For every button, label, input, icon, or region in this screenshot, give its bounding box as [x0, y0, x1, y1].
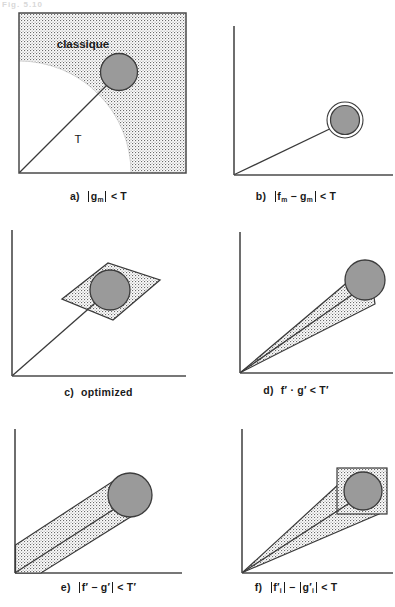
panel-e-band: e)f′−g′<T′ — [0, 415, 197, 587]
panel-e-relation: < — [117, 581, 123, 593]
vector-line-f — [243, 493, 366, 573]
panel-b-term1-sub: m — [281, 196, 287, 203]
panel-f-graphic — [197, 415, 395, 587]
panel-e-term2: g′ — [101, 581, 111, 593]
panel-c-optimized: c)optimized — [0, 218, 197, 390]
panel-b-caption: b)fm−gm<T — [197, 190, 395, 202]
uncertainty-disc-f — [344, 472, 382, 510]
panel-d-label: d) — [263, 384, 274, 396]
threshold-label-a: T — [74, 133, 81, 145]
panel-f-wedge-box: f)f′i−g′i<T — [197, 415, 395, 587]
panel-c-word: optimized — [81, 386, 133, 398]
panel-f-relation: < — [321, 581, 327, 593]
uncertainty-disc-c — [90, 270, 130, 310]
panel-a-threshold: T — [120, 190, 127, 202]
vector-line-b — [235, 124, 341, 175]
panel-b-operator: − — [291, 190, 297, 202]
abs-bar-close-1 — [284, 582, 285, 593]
abs-bar-open-1 — [271, 582, 272, 593]
abs-bar-close-2 — [316, 582, 317, 593]
panel-d-term2: g′ — [297, 384, 307, 396]
panel-b-term2: g — [300, 190, 307, 202]
panel-c-caption: c)optimized — [0, 386, 197, 398]
classique-label: classique — [57, 38, 109, 50]
uncertainty-disc-d — [345, 260, 385, 300]
panel-e-operator: − — [91, 581, 97, 593]
panel-a-term: g — [91, 190, 98, 202]
abs-bar-close — [105, 191, 106, 202]
uncertainty-disc-a — [101, 54, 138, 91]
panel-b-relation: < — [320, 190, 326, 202]
panel-e-label: e) — [61, 581, 71, 593]
panel-f-operator: − — [289, 581, 295, 593]
abs-bar-close — [315, 191, 316, 202]
panel-f-term1: f′ — [273, 581, 280, 593]
panel-a-graphic: classique T — [0, 8, 197, 188]
panel-d-caption: d)f′·g′<T′ — [197, 384, 395, 396]
uncertainty-disc-b — [331, 106, 360, 135]
panel-d-threshold: T′ — [319, 384, 329, 396]
figure-root: Fig. 5.10 — [0, 0, 395, 607]
panel-b-ring: b)fm−gm<T — [197, 8, 395, 188]
abs-bar-open — [79, 582, 80, 593]
panel-a-relation: < — [111, 190, 117, 202]
panel-f-threshold: T — [331, 581, 338, 593]
panel-d-term1: f′ — [281, 384, 288, 396]
abs-bar-open — [275, 191, 276, 202]
panel-d-relation: < — [310, 384, 316, 396]
panel-e-caption: e)f′−g′<T′ — [0, 581, 197, 593]
panel-a-classique: classique T a)gm<T — [0, 8, 197, 188]
panel-b-label: b) — [256, 190, 267, 202]
panel-e-threshold: T′ — [127, 581, 137, 593]
panel-c-label: c) — [64, 386, 74, 398]
panel-e-graphic — [0, 415, 197, 587]
panel-a-term-sub: m — [98, 196, 104, 203]
panel-d-graphic — [197, 218, 395, 390]
abs-bar-open-2 — [300, 582, 301, 593]
panel-f-term1-sub: i — [280, 587, 282, 594]
panel-a-caption: a)gm<T — [0, 190, 197, 202]
panel-b-graphic — [197, 8, 395, 188]
panel-f-term2-sub: i — [312, 587, 314, 594]
panel-b-term2-sub: m — [307, 196, 313, 203]
panel-d-operator: · — [290, 384, 294, 396]
panel-a-label: a) — [70, 190, 80, 202]
abs-bar-close — [112, 582, 113, 593]
panel-f-term2: g′ — [302, 581, 312, 593]
panel-c-graphic — [0, 218, 197, 390]
panel-b-threshold: T — [329, 190, 336, 202]
vector-line-d — [241, 283, 370, 373]
panel-d-wedge: d)f′·g′<T′ — [197, 218, 395, 390]
panel-f-caption: f)f′i−g′i<T — [197, 581, 395, 593]
panel-e-term1: f′ — [82, 581, 89, 593]
panel-f-label: f) — [255, 581, 263, 593]
abs-bar-open — [88, 191, 89, 202]
uncertainty-disc-e — [108, 473, 152, 517]
